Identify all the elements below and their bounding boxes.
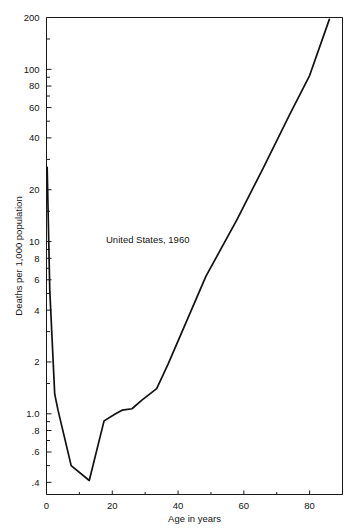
x-tick-label: 20 [107, 500, 118, 511]
y-tick-label: 20 [29, 184, 40, 195]
x-tick-label: 0 [44, 500, 49, 511]
y-tick-label: .8 [32, 425, 40, 436]
y-tick-label: 80 [29, 80, 40, 91]
y-tick-label: 6 [34, 274, 39, 285]
y-tick-label: 100 [24, 64, 40, 75]
chart-annotation: United States, 1960 [106, 234, 189, 245]
y-tick-label: 60 [29, 102, 40, 113]
chart-canvas: 200100806040201086421.0.8.6.4 020406080 … [0, 0, 363, 530]
y-tick-label: .4 [32, 477, 40, 488]
x-tick-label: 40 [173, 500, 184, 511]
mortality-chart-figure: 200100806040201086421.0.8.6.4 020406080 … [0, 0, 363, 530]
x-axis-title: Age in years [168, 513, 221, 524]
y-tick-label: 2 [34, 356, 39, 367]
y-axis-title: Deaths per 1,000 population [13, 196, 24, 315]
y-tick-label: 4 [34, 305, 39, 316]
y-tick-label: 200 [24, 12, 40, 23]
x-tick-label: 80 [304, 500, 315, 511]
y-tick-label: 1.0 [26, 408, 39, 419]
y-tick-label: 40 [29, 132, 40, 143]
y-tick-label: 10 [29, 236, 40, 247]
x-tick-label: 60 [239, 500, 250, 511]
y-tick-label: .6 [32, 446, 40, 457]
y-tick-label: 8 [34, 253, 39, 264]
